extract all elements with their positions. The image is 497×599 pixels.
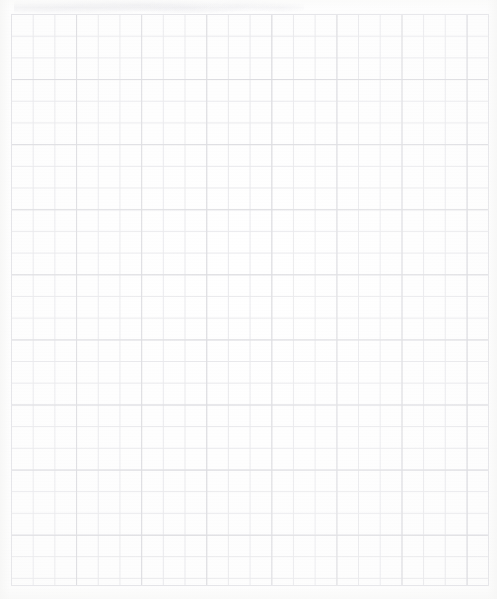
graph-paper-page xyxy=(0,0,497,599)
quadrille-grid xyxy=(11,14,489,586)
grid-outer-frame xyxy=(11,14,489,586)
